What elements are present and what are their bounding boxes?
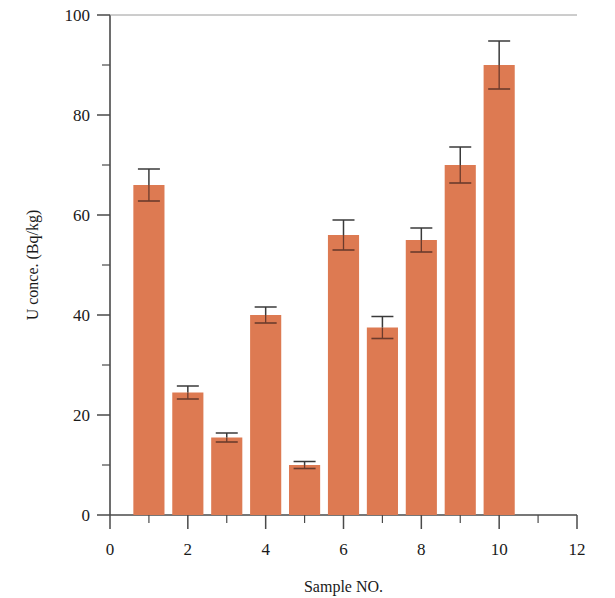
y-axis-title: U conce. (Bq/kg) xyxy=(24,210,42,321)
bar-sample-4 xyxy=(250,315,281,515)
x-tick-label-10: 10 xyxy=(491,540,508,559)
x-tick-label-0: 0 xyxy=(106,540,115,559)
x-tick-label-8: 8 xyxy=(417,540,426,559)
bar-sample-8 xyxy=(406,240,437,515)
x-tick-label-4: 4 xyxy=(261,540,270,559)
bar-sample-2 xyxy=(172,393,203,516)
bar-sample-10 xyxy=(484,65,515,515)
x-tick-label-6: 6 xyxy=(339,540,348,559)
bar-chart-figure: 020406080100024681012Sample NO.U conce. … xyxy=(0,0,615,598)
bar-sample-5 xyxy=(289,465,320,515)
y-tick-label-100: 100 xyxy=(65,6,91,25)
x-axis-title: Sample NO. xyxy=(304,578,383,596)
plot-area: 020406080100024681012Sample NO.U conce. … xyxy=(24,6,586,596)
y-tick-label-60: 60 xyxy=(73,206,90,225)
bar-sample-6 xyxy=(328,235,359,515)
y-tick-label-80: 80 xyxy=(73,106,90,125)
y-tick-label-0: 0 xyxy=(82,506,91,525)
bar-sample-1 xyxy=(133,185,164,515)
x-tick-label-2: 2 xyxy=(184,540,193,559)
bar-sample-3 xyxy=(211,438,242,516)
y-tick-label-40: 40 xyxy=(73,306,90,325)
bar-sample-9 xyxy=(445,165,476,515)
y-tick-label-20: 20 xyxy=(73,406,90,425)
bar-sample-7 xyxy=(367,328,398,516)
x-tick-label-12: 12 xyxy=(569,540,586,559)
